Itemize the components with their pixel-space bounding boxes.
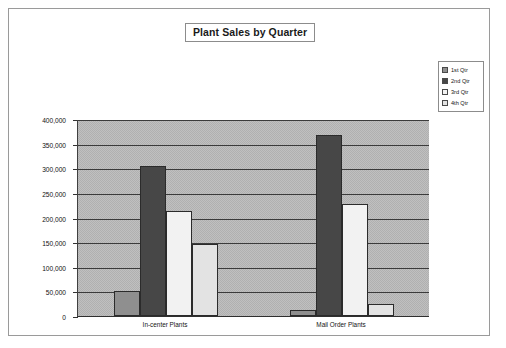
x-axis-category-labels: In-center PlantsMail Order Plants — [77, 321, 429, 335]
bar-2nd-qtr[interactable] — [316, 135, 342, 316]
y-tickmark — [73, 317, 78, 318]
bar-3rd-qtr[interactable] — [342, 204, 368, 316]
bar-4th-qtr[interactable] — [192, 244, 218, 316]
legend-label: 4th Qtr — [451, 100, 468, 107]
legend-swatch-icon — [442, 78, 448, 84]
bar-4th-qtr[interactable] — [368, 304, 394, 316]
legend-swatch-icon — [442, 100, 448, 106]
y-tick-label: 250,000 — [42, 190, 66, 197]
y-tick-label: 400,000 — [42, 117, 66, 124]
y-axis-labels: 400,000350,000300,000250,000200,000150,0… — [9, 120, 72, 317]
chart-title: Plant Sales by Quarter — [185, 23, 315, 42]
y-tick-label: 50,000 — [46, 289, 66, 296]
y-tick-label: 350,000 — [42, 141, 66, 148]
legend-swatch-icon — [442, 89, 448, 95]
bar-group — [114, 120, 218, 316]
y-tick-label: 300,000 — [42, 166, 66, 173]
chart-legend[interactable]: 1st Qtr2nd Qtr3rd Qtr4th Qtr — [438, 61, 484, 112]
legend-label: 1st Qtr — [451, 67, 468, 74]
legend-item[interactable]: 1st Qtr — [442, 65, 481, 75]
bar-1st-qtr[interactable] — [114, 291, 140, 316]
y-tick-label: 100,000 — [42, 264, 66, 271]
bar-group — [290, 120, 394, 316]
chart-frame: Plant Sales by Quarter 1st Qtr2nd Qtr3rd… — [8, 8, 490, 336]
legend-swatch-icon — [442, 67, 448, 73]
bar-1st-qtr[interactable] — [290, 310, 316, 316]
legend-item[interactable]: 2nd Qtr — [442, 76, 481, 86]
bar-2nd-qtr[interactable] — [140, 166, 166, 316]
y-tick-label: 200,000 — [42, 215, 66, 222]
y-tick-label: 150,000 — [42, 240, 66, 247]
x-category-label: In-center Plants — [143, 321, 188, 328]
legend-label: 2nd Qtr — [451, 78, 470, 85]
bar-3rd-qtr[interactable] — [166, 211, 192, 316]
plot-area — [77, 120, 429, 317]
legend-item[interactable]: 4th Qtr — [442, 98, 481, 108]
x-category-label: Mail Order Plants — [316, 321, 365, 328]
legend-label: 3rd Qtr — [451, 89, 468, 96]
legend-item[interactable]: 3rd Qtr — [442, 87, 481, 97]
y-tick-label: 0 — [62, 314, 66, 321]
plot-wrapper — [77, 120, 429, 317]
